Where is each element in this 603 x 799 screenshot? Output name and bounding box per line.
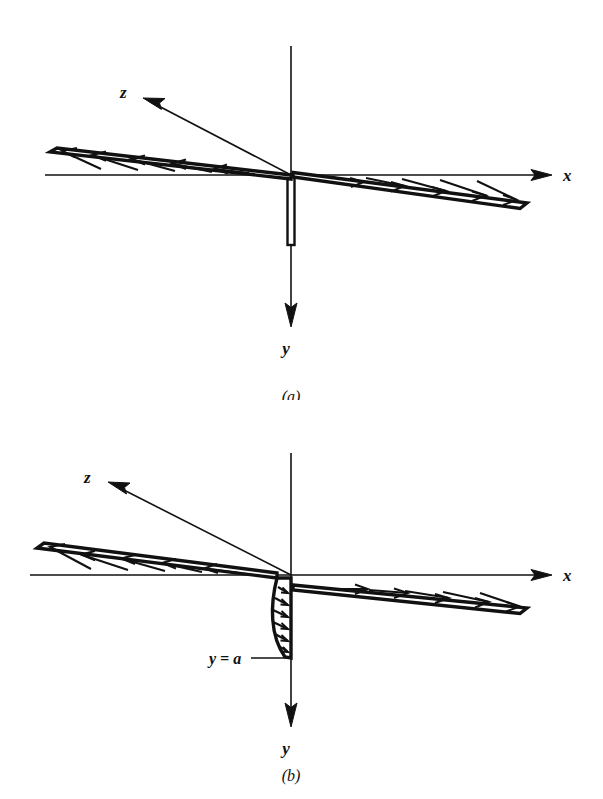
- panel-b-downstream-profile: [293, 585, 527, 614]
- panel-b-downstream-wedge: [293, 585, 527, 614]
- panel-a-downstream-profile: [293, 173, 527, 209]
- panel-a-y-axis-label: y: [280, 339, 290, 358]
- panel-b-x-axis-label: x: [562, 566, 572, 585]
- panel-a-downstream-wedge: [293, 173, 527, 209]
- panel-b: x y z: [0, 400, 603, 799]
- panel-b-x-axis: x: [30, 566, 572, 585]
- figure-root: x y z: [0, 0, 603, 799]
- panel-b-boundary-layer-profile: [272, 578, 291, 658]
- panel-b-y-axis-label: y: [280, 739, 290, 758]
- panel-b-upstream-profile: [37, 543, 277, 578]
- panel-a-x-axis-label: x: [562, 166, 572, 185]
- panel-b-y-equals-a-label: y = a: [207, 650, 241, 668]
- panel-b-z-axis-label: z: [83, 468, 91, 487]
- panel-b-caption: (b): [282, 767, 301, 785]
- panel-a-z-axis-label: z: [119, 83, 127, 102]
- panel-a: x y z: [0, 0, 603, 400]
- panel-a-caption: (a): [282, 388, 301, 400]
- panel-a-flat-plate: [288, 175, 295, 245]
- panel-b-y-equals-a-annotation: y = a: [207, 650, 289, 668]
